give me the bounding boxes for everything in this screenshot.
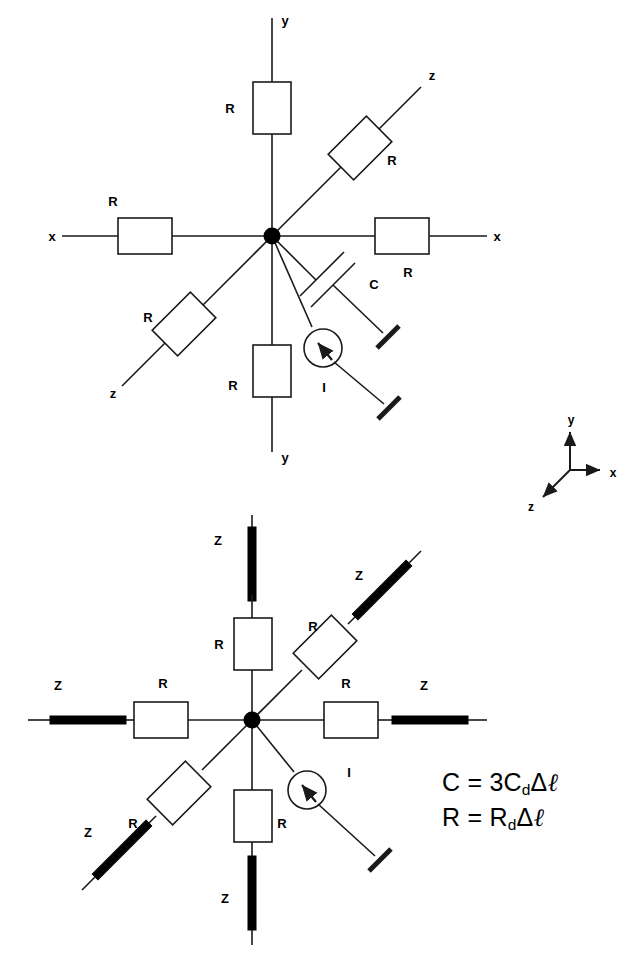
top-axis-label-x-right: x	[493, 229, 501, 244]
bottom-impedance-right-label: Z	[420, 678, 428, 693]
top-resistor-diag-ur-label: R	[387, 153, 397, 168]
bottom-resistor-up-label: R	[214, 637, 224, 652]
bottom-impedance-left	[50, 716, 126, 724]
bottom-impedance-diag-ll-label: Z	[84, 825, 92, 840]
eq2-symbol: R	[489, 803, 507, 831]
top-resistor-left	[118, 218, 172, 254]
bottom-diagram-group: Z R R Z Z R R Z	[28, 515, 487, 945]
bottom-impedance-down	[248, 856, 256, 930]
top-current-source-label: I	[322, 380, 326, 395]
top-resistor-up	[253, 82, 291, 134]
bottom-resistor-diag-ll	[147, 761, 211, 825]
bottom-resistor-left-label: R	[158, 676, 168, 691]
bottom-impedance-up	[248, 527, 256, 601]
bottom-resistor-dur-group	[293, 615, 357, 679]
top-resistor-up-label: R	[225, 101, 235, 116]
top-resistor-down-label: R	[228, 378, 238, 393]
legend-x-label: x	[610, 466, 617, 480]
bottom-impedance-left-label: Z	[54, 678, 62, 693]
bottom-resistor-diag-ur-label: R	[308, 619, 318, 634]
bottom-line-dur-inner	[252, 670, 302, 720]
axis-legend-group: y x z	[528, 413, 617, 514]
bottom-resistor-left	[134, 702, 188, 738]
top-line-z-ur-inner	[272, 167, 341, 236]
bottom-line-dur-mid	[348, 617, 355, 624]
bottom-impedance-diag-ll	[92, 820, 151, 879]
eq1-equals: =	[467, 768, 482, 796]
equation-line-1: C = 3CdΔℓ	[442, 766, 558, 801]
eq2-equals: =	[467, 803, 482, 831]
bottom-impedance-right	[392, 716, 468, 724]
top-current-source-lead-in	[272, 236, 312, 327]
top-capacitor-label: C	[369, 277, 379, 292]
bottom-current-source-ground-bar	[369, 849, 391, 871]
eq2-lhs: R	[442, 803, 460, 831]
eq1-coefficient: 3	[489, 768, 503, 796]
bottom-resistor-dll-group	[147, 761, 211, 825]
bottom-resistor-diag-ll-label: R	[128, 816, 138, 831]
eq1-delta: Δ	[531, 768, 548, 796]
figure-canvas: R R R R R R	[0, 0, 632, 976]
bottom-resistor-down	[234, 790, 272, 842]
top-line-z-ur	[379, 87, 421, 129]
top-diagram-group: R R R R R R	[48, 13, 501, 465]
top-capacitor-lead-in	[272, 236, 316, 280]
eq2-delta: Δ	[516, 803, 533, 831]
top-axis-label-z-lower-left: z	[110, 386, 117, 401]
top-resistor-right	[375, 218, 429, 254]
bottom-impedance-diag-ur-label: Z	[355, 568, 363, 583]
top-capacitor-lead-out	[333, 285, 383, 333]
top-axis-label-y-up: y	[281, 13, 289, 28]
legend-z-axis-arrow	[543, 470, 570, 497]
bottom-line-dll-inner	[202, 720, 252, 770]
top-line-z-ll-inner	[203, 236, 272, 305]
top-resistor-down	[253, 345, 291, 397]
equation-line-2: R = RdΔℓ	[442, 801, 544, 836]
bottom-resistor-right-label: R	[341, 676, 351, 691]
bottom-impedance-dll-group	[92, 820, 151, 879]
top-line-z-ll	[122, 343, 165, 386]
legend-y-label: y	[568, 413, 575, 427]
top-axis-label-y-down: y	[281, 450, 289, 465]
top-axis-label-z-upper-right: z	[429, 68, 436, 83]
eq1-symbol: C	[504, 768, 522, 796]
bottom-current-source-lead-in	[252, 720, 294, 772]
bottom-resistor-diag-ur	[293, 615, 357, 679]
legend-z-label: z	[528, 500, 534, 514]
top-current-source-ground-bar	[378, 397, 400, 419]
eq1-subscript: d	[522, 781, 531, 798]
bottom-resistor-up	[234, 618, 272, 670]
top-resistor-left-label: R	[108, 194, 118, 209]
bottom-impedance-down-label: Z	[221, 891, 229, 906]
eq1-lhs: C	[442, 768, 460, 796]
top-current-source-lead-out	[334, 362, 384, 404]
eq1-ell: ℓ	[548, 769, 559, 796]
bottom-center-node	[244, 712, 261, 729]
top-resistor-diag-ll-label: R	[143, 310, 153, 325]
bottom-current-source-lead-out	[318, 804, 375, 856]
bottom-resistor-right	[324, 702, 378, 738]
bottom-resistor-down-label: R	[277, 816, 287, 831]
bottom-line-dll-tail	[82, 877, 95, 890]
top-axis-label-x-left: x	[48, 229, 56, 244]
eq2-ell: ℓ	[533, 804, 544, 831]
top-center-node	[264, 228, 281, 245]
bottom-current-source-label: I	[347, 765, 351, 780]
bottom-impedance-up-label: Z	[214, 533, 222, 548]
top-resistor-right-label: R	[403, 265, 413, 280]
bottom-line-dur-tail	[409, 551, 421, 563]
